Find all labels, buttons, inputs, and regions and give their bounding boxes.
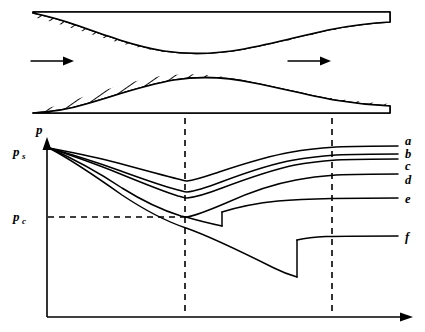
curve-label-d: d: [405, 173, 412, 187]
critical-pressure-subscript: c: [22, 216, 26, 226]
curve-label-f: f: [405, 230, 411, 244]
nozzle-pressure-figure: p p s p c a b c d e f: [0, 0, 425, 332]
critical-pressure-symbol: p: [12, 209, 20, 224]
outlet-flow-arrow: [288, 57, 331, 66]
curve-label-c: c: [405, 159, 411, 173]
curve-label-e: e: [405, 192, 411, 206]
y-axis-label: p: [35, 122, 43, 137]
inlet-flow-arrow: [31, 57, 74, 66]
x-axis-arrowhead: [400, 313, 413, 322]
figure-canvas: p p s p c a b c d e f: [0, 0, 425, 332]
pressure-curve-e: [186, 198, 398, 226]
stagnation-pressure-subscript: s: [21, 151, 26, 161]
curve-label-a: a: [405, 134, 411, 148]
pressure-curve-c: [49, 148, 398, 198]
upper-nozzle-wall: [28, 8, 398, 60]
critical-pressure-label: p c: [12, 209, 26, 226]
lower-nozzle-wall: [28, 66, 398, 118]
stagnation-pressure-symbol: p: [12, 144, 20, 159]
pressure-curve-f: [49, 148, 398, 277]
stagnation-pressure-label: p s: [12, 144, 26, 161]
